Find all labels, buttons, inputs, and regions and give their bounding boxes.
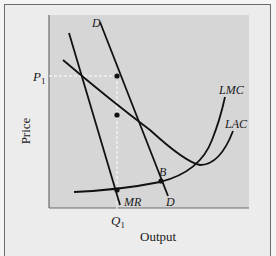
x-axis-label: Output [140, 229, 177, 244]
point-b [158, 178, 163, 183]
mr-lmc-intersection-point [114, 187, 119, 192]
demand-price-point [114, 73, 119, 78]
marginal-revenue-label: MR [123, 195, 142, 209]
demand-bottom-label: D [165, 195, 175, 209]
plot-area [49, 15, 249, 208]
y-axis-label: Price [18, 117, 33, 144]
lac-label: LAC [224, 117, 248, 131]
average-cost-point [114, 112, 119, 117]
demand-top-label: D [91, 16, 101, 30]
quantity-tick-label: Q1 [111, 213, 125, 230]
price-tick-label: P1 [32, 69, 45, 86]
lmc-label: LMC [218, 83, 245, 97]
point-b-label: B [159, 165, 167, 179]
